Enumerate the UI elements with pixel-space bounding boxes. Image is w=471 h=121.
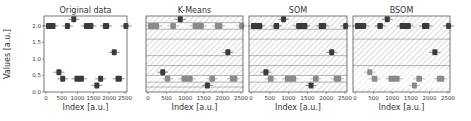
data-marker — [116, 76, 122, 82]
panel-title: Original data — [60, 6, 112, 15]
x-tick-label: 1000 — [71, 95, 85, 101]
x-tick-label: 0 — [249, 95, 253, 101]
data-marker — [437, 76, 444, 82]
data-marker — [263, 69, 268, 75]
data-marker — [377, 23, 383, 29]
data-marker — [367, 69, 372, 75]
data-marker — [329, 49, 334, 55]
data-marker — [181, 76, 192, 82]
x-tick-label: 1000 — [178, 95, 192, 101]
x-tick-label: 1500 — [86, 95, 100, 101]
data-marker — [281, 16, 286, 22]
panel-original-data: Original data05001000150020002500Index [… — [32, 6, 132, 112]
x-tick-label: 500 — [57, 95, 68, 101]
panel-title: BSOM — [390, 6, 414, 15]
x-axis-label: Index [a.u.] — [379, 103, 425, 112]
x-tick-label: 0 — [44, 95, 48, 101]
x-tick-label: 2500 — [338, 95, 352, 101]
data-marker — [400, 23, 411, 29]
data-marker — [274, 23, 280, 29]
x-tick-label: 2500 — [441, 95, 455, 101]
x-tick-label: 500 — [265, 95, 276, 101]
data-marker — [165, 76, 171, 82]
x-tick-label: 500 — [161, 95, 172, 101]
data-marker — [225, 49, 230, 55]
data-marker — [56, 69, 61, 75]
panel-title: SOM — [289, 6, 307, 15]
panel-som: SOM05001000150020002500Index [a.u.] — [248, 6, 352, 112]
data-marker — [285, 76, 296, 82]
data-marker — [178, 16, 183, 22]
data-marker — [416, 76, 422, 82]
data-marker — [74, 76, 83, 82]
data-marker — [148, 23, 159, 29]
data-marker — [388, 76, 399, 82]
data-marker — [372, 76, 378, 82]
data-marker — [309, 82, 314, 88]
x-tick-label: 0 — [353, 95, 357, 101]
x-tick-label: 1500 — [404, 95, 418, 101]
data-marker — [65, 23, 70, 29]
data-marker — [355, 23, 366, 29]
x-tick-label: 2500 — [234, 95, 248, 101]
y-tick-label: 1.0 — [32, 56, 41, 62]
x-tick-label: 500 — [368, 95, 379, 101]
data-marker — [84, 23, 93, 29]
data-marker — [385, 16, 390, 22]
panel-bsom: BSOM05001000150020002500Index [a.u.] — [352, 6, 455, 112]
data-marker — [215, 23, 222, 29]
x-tick-label: 1500 — [197, 95, 211, 101]
panel-k-means: K-Means05001000150020002500Index [a.u.] — [145, 6, 248, 112]
y-tick-label: 2.0 — [32, 23, 41, 29]
data-marker — [296, 23, 307, 29]
data-marker — [94, 82, 99, 88]
x-axis-label: Index [a.u.] — [63, 103, 109, 112]
x-tick-label: 1000 — [385, 95, 399, 101]
data-marker — [193, 23, 204, 29]
y-tick-label: 0.5 — [32, 72, 41, 78]
y-tick-label: 0.0 — [32, 89, 41, 95]
data-marker — [209, 76, 215, 82]
data-marker — [46, 23, 55, 29]
data-marker — [98, 76, 103, 82]
data-marker — [230, 76, 237, 82]
data-marker — [205, 82, 210, 88]
data-marker — [432, 49, 437, 55]
data-marker — [103, 23, 109, 29]
data-marker — [123, 23, 128, 29]
data-marker — [71, 16, 76, 22]
x-tick-label: 2500 — [118, 95, 132, 101]
data-marker — [112, 49, 117, 55]
data-marker — [319, 23, 327, 29]
data-marker — [60, 76, 65, 82]
x-tick-label: 2000 — [319, 95, 333, 101]
x-tick-label: 2000 — [422, 95, 436, 101]
x-axis-label: Index [a.u.] — [172, 103, 218, 112]
data-marker — [170, 23, 176, 29]
figure: Original data05001000150020002500Index [… — [0, 0, 471, 121]
data-marker — [422, 23, 429, 29]
data-marker — [268, 76, 274, 82]
panel-title: K-Means — [178, 6, 211, 15]
x-tick-label: 1000 — [282, 95, 296, 101]
x-tick-label: 0 — [146, 95, 150, 101]
x-tick-label: 2000 — [102, 95, 116, 101]
data-marker — [334, 76, 342, 82]
data-marker — [251, 23, 262, 29]
x-tick-label: 2000 — [215, 95, 229, 101]
data-marker — [160, 69, 165, 75]
data-marker — [313, 76, 319, 82]
x-tick-label: 1500 — [300, 95, 314, 101]
x-axis-label: Index [a.u.] — [275, 103, 321, 112]
y-tick-label: 1.5 — [32, 39, 41, 45]
cluster-band — [354, 82, 450, 88]
y-axis-label: Values [a.u.] — [3, 29, 12, 79]
data-marker — [412, 82, 417, 88]
